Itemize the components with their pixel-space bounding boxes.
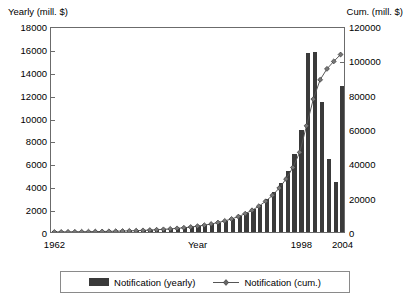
cum-line-marker — [222, 218, 227, 223]
cum-line-marker — [72, 229, 77, 232]
legend-bar-swatch-icon — [89, 278, 109, 286]
cum-line-marker — [52, 229, 57, 232]
cum-line-marker — [93, 229, 98, 232]
left-axis-tick-label: 18000 — [21, 23, 47, 33]
cum-line-marker — [236, 214, 241, 219]
cum-line-marker — [141, 228, 146, 232]
cum-line-marker — [86, 229, 91, 232]
cum-line-marker — [243, 211, 248, 216]
left-axis-tick-label: 8000 — [26, 137, 47, 147]
left-axis-tick-label: 16000 — [21, 46, 47, 56]
legend-item-notification-cum: Notification (cum.) — [213, 277, 321, 288]
cum-line-marker — [202, 223, 207, 228]
right-axis-tick-label: 80000 — [349, 92, 375, 102]
left-axis-tick-label: 0 — [42, 229, 47, 239]
left-axis-tick-label: 4000 — [26, 183, 47, 193]
left-axis-tick-label: 14000 — [21, 69, 47, 79]
cum-line-marker — [209, 222, 214, 227]
cum-line-marker — [175, 226, 180, 231]
right-axis-tick-label: 60000 — [349, 126, 375, 136]
cum-line-marker — [79, 229, 84, 232]
legend-item-notification-yearly: Notification (yearly) — [89, 277, 195, 288]
right-axis-title: Cum. (mill. $) — [347, 6, 403, 17]
left-axis-tick-label: 2000 — [26, 206, 47, 216]
x-axis-tick-label: 1998 — [291, 239, 312, 250]
cum-line-marker — [127, 228, 132, 232]
cum-line-marker — [168, 226, 173, 231]
cum-line-marker — [290, 165, 295, 170]
cum-line-marker — [215, 220, 220, 225]
x-axis-title: Year — [188, 239, 207, 250]
plot-inner — [51, 28, 344, 232]
chart-legend: Notification (yearly) Notification (cum.… — [60, 271, 350, 293]
x-axis-tick-label: 1962 — [44, 239, 65, 250]
cum-line-marker — [297, 150, 302, 155]
cum-line-marker — [311, 97, 316, 102]
cum-line-marker — [100, 229, 105, 232]
left-axis-tick-label: 10000 — [21, 115, 47, 125]
legend-line-marker-icon — [213, 278, 239, 287]
cum-line-marker — [113, 229, 118, 232]
cum-line-path — [54, 55, 340, 232]
x-axis-tick-label: 2004 — [332, 239, 353, 250]
cum-line-marker — [147, 228, 152, 232]
left-axis-tick-label: 12000 — [21, 92, 47, 102]
right-axis-tick-label: 0 — [349, 229, 354, 239]
line-series-notification-cum — [51, 28, 344, 232]
right-axis-tick-label: 20000 — [349, 195, 375, 205]
cum-line-marker — [188, 225, 193, 230]
left-axis-title: Yearly (mill. $) — [8, 6, 68, 17]
legend-label-notification-yearly: Notification (yearly) — [114, 277, 195, 288]
right-axis-tick-label: 40000 — [349, 160, 375, 170]
chart-figure: Yearly (mill. $) Cum. (mill. $) 02000400… — [0, 0, 409, 303]
cum-line-marker — [195, 224, 200, 229]
cum-line-marker — [161, 227, 166, 232]
cum-line-marker — [229, 217, 234, 222]
legend-label-notification-cum: Notification (cum.) — [244, 277, 321, 288]
cum-line-marker — [304, 123, 309, 128]
left-axis-tick-label: 6000 — [26, 160, 47, 170]
cum-line-marker — [106, 229, 111, 232]
right-axis-tick-label: 120000 — [349, 23, 381, 33]
cum-line-marker — [250, 208, 255, 213]
cum-line-marker — [318, 77, 323, 82]
cum-line-marker — [66, 229, 71, 232]
cum-line-marker — [120, 229, 125, 232]
cum-line-marker — [181, 225, 186, 230]
plot-area: 0200040006000800010000120001400016000180… — [50, 27, 345, 233]
cum-line-marker — [134, 228, 139, 232]
right-axis-tick-label: 100000 — [349, 57, 381, 67]
cum-line-marker — [154, 227, 159, 232]
cum-line-marker — [59, 229, 64, 232]
